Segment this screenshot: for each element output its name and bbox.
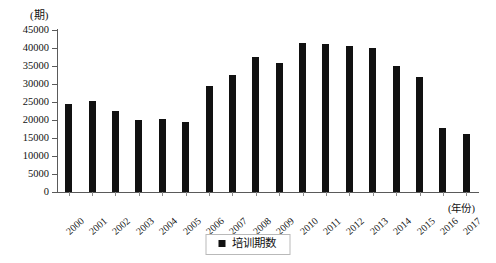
x-axis-tick — [162, 192, 163, 196]
y-axis-tick-label: 30000 — [23, 79, 49, 90]
y-axis-tick-label: 35000 — [23, 61, 49, 72]
y-axis-tick — [52, 120, 57, 121]
x-axis-tick-label: 2015 — [415, 216, 437, 237]
y-axis-tick — [52, 66, 57, 67]
x-axis-tick — [186, 192, 187, 196]
x-axis-tick — [92, 192, 93, 196]
x-axis-tick — [279, 192, 280, 196]
x-axis-tick-label: 2011 — [321, 216, 342, 237]
bar — [463, 134, 470, 192]
x-axis-tick-label: 2005 — [181, 216, 203, 237]
bar — [135, 120, 142, 192]
x-axis-tick — [139, 192, 140, 196]
x-axis-tick — [420, 192, 421, 196]
plot-area: 4500040000350003000025000200001500010000… — [57, 30, 478, 192]
y-axis-tick-label: 15000 — [23, 133, 49, 144]
y-axis-tick-label: 40000 — [23, 43, 49, 54]
bar — [252, 57, 259, 192]
y-axis-tick — [52, 192, 57, 193]
bar — [322, 44, 329, 192]
x-axis-tick — [303, 192, 304, 196]
bar — [229, 75, 236, 192]
y-axis-tick-label: 20000 — [23, 115, 49, 126]
bar — [65, 104, 72, 192]
bar — [346, 46, 353, 192]
y-axis-unit-label: (期) — [30, 6, 48, 22]
y-axis-tick — [52, 102, 57, 103]
x-axis-tick-label: 2010 — [298, 216, 320, 237]
y-axis-tick-label: 0 — [44, 187, 49, 198]
x-axis-tick-label: 2004 — [158, 216, 180, 237]
legend-item-label: 培训期数 — [232, 238, 276, 250]
x-axis-tick — [396, 192, 397, 196]
y-axis-tick — [52, 48, 57, 49]
y-axis-tick — [52, 30, 57, 31]
x-axis-tick-label: 2012 — [345, 216, 367, 237]
x-axis-unit-label: (年份) — [448, 200, 475, 215]
x-axis-tick-label: 2002 — [111, 216, 133, 237]
legend-square-marker-icon — [219, 240, 226, 247]
y-axis-tick-label: 45000 — [23, 25, 49, 36]
x-axis-tick-label: 2014 — [392, 216, 414, 237]
x-axis-tick-label: 2013 — [368, 216, 390, 237]
bar-chart: (期) 450004000035000300002500020000150001… — [0, 0, 496, 263]
x-axis-tick — [209, 192, 210, 196]
bar — [89, 101, 96, 192]
y-axis-tick-label: 5000 — [28, 169, 49, 180]
x-axis-tick-label: 2003 — [134, 216, 156, 237]
x-axis-tick — [466, 192, 467, 196]
y-axis-tick-label: 25000 — [23, 97, 49, 108]
x-axis-tick — [373, 192, 374, 196]
bar — [299, 43, 306, 192]
x-axis-tick-label: 2001 — [88, 216, 110, 237]
x-axis-tick-label: 2000 — [64, 216, 86, 237]
bar — [369, 48, 376, 192]
bar — [112, 111, 119, 192]
x-axis-tick — [232, 192, 233, 196]
x-axis-tick — [443, 192, 444, 196]
bar — [416, 77, 423, 192]
x-axis-tick-label: 2017 — [462, 216, 484, 237]
bar — [182, 122, 189, 192]
x-axis-tick — [115, 192, 116, 196]
x-axis-tick — [256, 192, 257, 196]
x-axis-tick — [69, 192, 70, 196]
chart-legend: 培训期数 — [206, 234, 291, 255]
bar — [439, 128, 446, 192]
y-axis-tick — [52, 156, 57, 157]
y-axis-tick — [52, 138, 57, 139]
y-axis-tick-label: 10000 — [23, 151, 49, 162]
bar — [159, 119, 166, 192]
x-axis-tick — [349, 192, 350, 196]
x-axis-line — [57, 192, 479, 193]
bar — [206, 86, 213, 192]
x-axis-tick — [326, 192, 327, 196]
bar — [276, 63, 283, 192]
bar — [393, 66, 400, 192]
y-axis-tick — [52, 174, 57, 175]
x-axis-tick-label: 2016 — [438, 216, 460, 237]
y-axis-tick — [52, 84, 57, 85]
